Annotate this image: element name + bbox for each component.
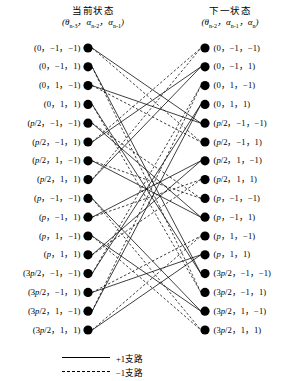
next-state-label: (3p/2，−1，1) <box>214 288 295 297</box>
legend-dashed-swatch <box>62 371 110 372</box>
transition-edges-layer <box>0 0 295 381</box>
current-state-node[interactable] <box>83 250 92 259</box>
transition-edge-plus1 <box>92 104 201 311</box>
current-state-node[interactable] <box>83 100 92 109</box>
next-state-label: (p/2，1，1) <box>214 175 295 184</box>
current-state-node[interactable] <box>83 119 92 128</box>
transition-edge-minus1 <box>92 180 201 255</box>
next-state-node[interactable] <box>200 307 209 316</box>
current-state-label: (0，1，1) <box>0 100 80 109</box>
next-state-node[interactable] <box>200 119 209 128</box>
current-state-node[interactable] <box>83 213 92 222</box>
current-state-label: (p/2，−1，−1) <box>0 119 80 128</box>
next-state-node[interactable] <box>200 288 209 297</box>
trellis-diagram: 当前状态 (θn-3，αn-2，αn-1) 下一状态 (θn-2，αn-1，αn… <box>0 0 295 381</box>
current-state-node[interactable] <box>83 194 92 203</box>
next-state-label: (p，−1，1) <box>214 213 295 222</box>
current-state-node[interactable] <box>83 325 92 334</box>
transition-edge-plus1 <box>92 67 201 142</box>
next-state-label: (0，1，−1) <box>214 81 295 90</box>
current-state-label: (0，−1，1) <box>0 62 80 71</box>
transition-edge-minus1 <box>92 86 201 312</box>
transition-edge-minus1 <box>92 123 201 198</box>
transition-edge-plus1 <box>92 255 201 293</box>
transition-edge-plus1 <box>92 198 201 311</box>
current-state-node[interactable] <box>83 156 92 165</box>
current-state-label: (p，−1，1) <box>0 213 80 222</box>
next-state-label: (0，−1，1) <box>214 62 295 71</box>
next-state-label: (3p/2，1，1) <box>214 326 295 335</box>
current-state-label: (p/2，−1，1) <box>0 138 80 147</box>
current-state-label: (0，1，−1) <box>0 81 80 90</box>
current-state-node[interactable] <box>83 43 92 52</box>
current-state-node[interactable] <box>83 175 92 184</box>
current-state-label: (0，−1，−1) <box>0 44 80 53</box>
next-state-label: (p/2，−1，1) <box>214 138 295 147</box>
next-state-node[interactable] <box>200 250 209 259</box>
transition-edge-plus1 <box>92 67 201 180</box>
current-state-label: (3p/2，−1，1) <box>0 288 80 297</box>
next-state-node[interactable] <box>200 43 209 52</box>
current-state-node[interactable] <box>83 81 92 90</box>
transition-edge-minus1 <box>92 86 201 274</box>
next-state-node[interactable] <box>200 325 209 334</box>
next-state-label: (p，−1，−1) <box>214 194 295 203</box>
next-state-label: (p，1，1) <box>214 250 295 259</box>
next-state-node[interactable] <box>200 231 209 240</box>
next-state-label: (p，1，−1) <box>214 232 295 241</box>
next-state-node[interactable] <box>200 194 209 203</box>
next-state-label: (3p/2，−1，−1) <box>214 269 295 278</box>
current-state-label: (p，1，−1) <box>0 232 80 241</box>
legend-solid-swatch <box>62 357 110 358</box>
next-state-label: (0，−1，−1) <box>214 44 295 53</box>
next-state-node[interactable] <box>200 269 209 278</box>
current-state-node[interactable] <box>83 288 92 297</box>
next-state-node[interactable] <box>200 213 209 222</box>
current-state-label: (p，−1，−1) <box>0 194 80 203</box>
current-state-label: (p/2，1，1) <box>0 175 80 184</box>
current-state-node[interactable] <box>83 231 92 240</box>
next-state-node[interactable] <box>200 156 209 165</box>
current-state-node[interactable] <box>83 269 92 278</box>
current-state-node[interactable] <box>83 62 92 71</box>
current-state-label: (p/2，1，−1) <box>0 156 80 165</box>
current-state-label: (3p/2，−1，−1) <box>0 269 80 278</box>
next-state-label: (0，1，1) <box>214 100 295 109</box>
current-state-label: (p，1，1) <box>0 250 80 259</box>
next-state-label: (p/2，−1，−1) <box>214 119 295 128</box>
transition-edge-plus1 <box>92 123 201 217</box>
next-state-node[interactable] <box>200 81 209 90</box>
transition-edge-plus1 <box>92 255 201 330</box>
next-state-label: (3p/2，1，−1) <box>214 307 295 316</box>
next-state-node[interactable] <box>200 62 209 71</box>
legend-solid-label: +1支路 <box>116 352 143 364</box>
current-state-node[interactable] <box>83 307 92 316</box>
current-state-node[interactable] <box>83 137 92 146</box>
transition-edge-plus1 <box>92 48 201 123</box>
current-state-label: (3p/2，1，−1) <box>0 307 80 316</box>
next-state-node[interactable] <box>200 137 209 146</box>
next-state-node[interactable] <box>200 175 209 184</box>
next-state-label: (p/2，1，−1) <box>214 156 295 165</box>
next-state-node[interactable] <box>200 100 209 109</box>
current-state-label: (3p/2，1，1) <box>0 326 80 335</box>
legend-dashed-label: −1支路 <box>116 366 143 378</box>
